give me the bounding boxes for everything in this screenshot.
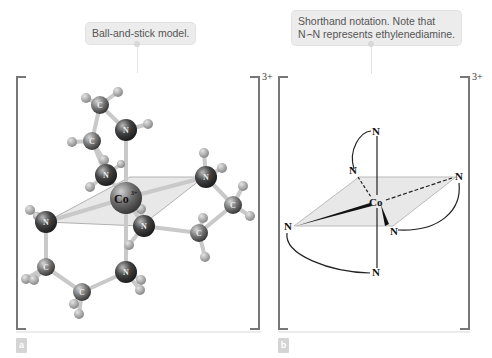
- svg-text:N: N: [372, 125, 380, 137]
- shorthand-notation-diagram: N N N N N N Co: [0, 0, 492, 358]
- svg-text:N: N: [455, 170, 463, 182]
- svg-text:N: N: [390, 225, 398, 237]
- atom-letters-b: N N N N N N Co: [284, 125, 463, 278]
- svg-text:N: N: [372, 266, 380, 278]
- svg-text:Co: Co: [369, 196, 383, 208]
- svg-text:N: N: [349, 164, 357, 176]
- svg-text:N: N: [284, 220, 292, 232]
